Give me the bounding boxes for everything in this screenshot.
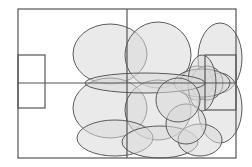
pitch-svg: [0, 0, 252, 167]
pitch-diagram: [0, 0, 252, 167]
zones-layer: [73, 22, 242, 158]
zone-ellipse: [156, 78, 200, 122]
left-penalty-box: [18, 55, 45, 108]
